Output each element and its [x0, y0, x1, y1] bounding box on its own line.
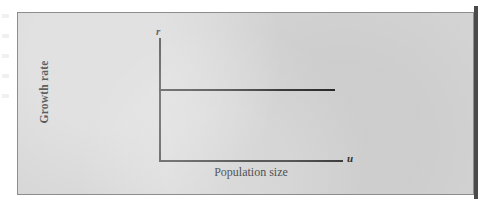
- scan-artifact: [2, 34, 9, 38]
- x-axis-line: [159, 160, 343, 162]
- figure-panel: r u Growth rate Population size: [17, 12, 474, 195]
- scan-artifact: [2, 54, 9, 58]
- scan-artifact: [2, 74, 9, 78]
- y-axis-line: [159, 38, 161, 162]
- figure-root: r u Growth rate Population size: [0, 0, 493, 217]
- scan-artifact: [2, 14, 9, 18]
- y-axis-title: Growth rate: [38, 44, 50, 140]
- growth-rate-data-line: [159, 89, 335, 91]
- x-axis-symbol: u: [347, 153, 353, 164]
- page-gutter-edge: [474, 6, 478, 199]
- x-axis-title: Population size: [159, 165, 343, 180]
- y-axis-symbol: r: [156, 26, 160, 37]
- scan-artifact: [2, 94, 9, 98]
